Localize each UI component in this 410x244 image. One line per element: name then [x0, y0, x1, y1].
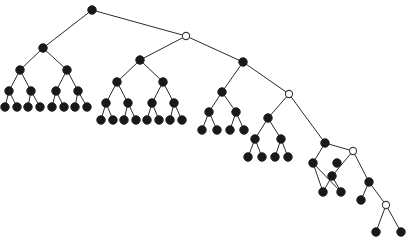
tree-svg: [0, 0, 410, 244]
tree-node-solid: [328, 172, 336, 180]
tree-node-solid: [337, 188, 345, 196]
tree-node-solid: [16, 66, 24, 74]
tree-edge: [43, 10, 92, 48]
tree-edge: [20, 48, 43, 70]
tree-node-solid: [365, 178, 373, 186]
tree-edge: [268, 94, 289, 118]
tree-node-solid: [63, 66, 71, 74]
tree-node-hollow: [182, 32, 189, 39]
tree-node-solid: [97, 116, 105, 124]
tree-node-hollow: [285, 90, 292, 97]
tree-diagram-canvas: [0, 0, 410, 244]
tree-node-solid: [258, 153, 266, 161]
tree-node-solid: [124, 99, 132, 107]
tree-node-solid: [319, 188, 327, 196]
tree-edge: [43, 48, 67, 70]
tree-node-solid: [109, 116, 117, 124]
tree-node-solid: [198, 126, 206, 134]
tree-edge: [243, 62, 289, 94]
tree-node-hollow: [349, 147, 356, 154]
tree-node-solid: [372, 228, 380, 236]
tree-node-solid: [83, 103, 91, 111]
tree-edge: [140, 36, 186, 60]
tree-edge: [92, 10, 186, 36]
tree-node-solid: [120, 116, 128, 124]
tree-node-solid: [48, 103, 56, 111]
tree-node-solid: [333, 159, 341, 167]
tree-node-solid: [178, 116, 186, 124]
tree-node-solid: [74, 87, 82, 95]
tree-node-solid: [113, 78, 121, 86]
tree-node-solid: [309, 159, 317, 167]
tree-node-solid: [170, 99, 178, 107]
tree-node-solid: [27, 87, 35, 95]
nodes-layer: [1, 6, 405, 236]
tree-node-solid: [143, 116, 151, 124]
tree-node-solid: [148, 99, 156, 107]
tree-node-solid: [244, 153, 252, 161]
tree-node-solid: [24, 103, 32, 111]
tree-node-solid: [218, 88, 226, 96]
tree-node-solid: [155, 116, 163, 124]
tree-node-solid: [357, 196, 365, 204]
tree-node-solid: [60, 103, 68, 111]
tree-node-solid: [226, 126, 234, 134]
tree-node-solid: [71, 103, 79, 111]
tree-node-solid: [36, 103, 44, 111]
tree-node-solid: [13, 103, 21, 111]
tree-node-solid: [102, 99, 110, 107]
tree-node-solid: [251, 135, 259, 143]
tree-node-solid: [1, 103, 9, 111]
tree-node-solid: [239, 58, 247, 66]
tree-edge: [222, 62, 243, 92]
tree-node-solid: [159, 78, 167, 86]
tree-node-solid: [284, 153, 292, 161]
tree-node-solid: [277, 135, 285, 143]
tree-node-solid: [240, 126, 248, 134]
edges-layer: [5, 10, 401, 232]
tree-node-solid: [166, 116, 174, 124]
tree-edge: [117, 60, 140, 82]
tree-node-solid: [271, 153, 279, 161]
tree-node-solid: [52, 87, 60, 95]
tree-node-solid: [5, 87, 13, 95]
tree-node-solid: [321, 139, 329, 147]
tree-node-solid: [232, 108, 240, 116]
tree-node-solid: [136, 56, 144, 64]
tree-node-solid: [39, 44, 47, 52]
tree-node-solid: [213, 126, 221, 134]
tree-edge: [289, 94, 325, 143]
tree-edge: [186, 36, 243, 62]
tree-edge: [140, 60, 163, 82]
tree-node-solid: [132, 116, 140, 124]
tree-node-solid: [205, 108, 213, 116]
tree-node-hollow: [382, 201, 389, 208]
tree-node-solid: [264, 114, 272, 122]
tree-edge: [353, 151, 369, 182]
tree-node-solid: [397, 228, 405, 236]
tree-node-solid: [88, 6, 96, 14]
